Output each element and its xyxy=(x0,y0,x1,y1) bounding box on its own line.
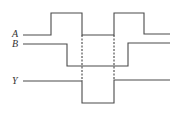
signal-a-waveform xyxy=(23,13,170,35)
signal-y-waveform xyxy=(23,80,170,103)
timing-diagram xyxy=(0,0,181,113)
signal-b-waveform xyxy=(23,43,170,66)
signal-y-label: Y xyxy=(12,76,18,86)
signal-b-label: B xyxy=(12,39,18,49)
